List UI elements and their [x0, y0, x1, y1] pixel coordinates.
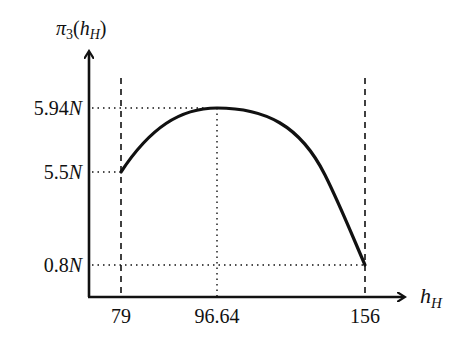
pi3-curve [121, 108, 365, 265]
x-tick-156: 156 [350, 305, 380, 327]
y-tick-5-94N: 5.94N [34, 97, 84, 119]
y-tick-5-5N: 5.5N [44, 161, 84, 183]
y-axis-label: π3(hH) [56, 17, 107, 42]
x-tick-79: 79 [111, 305, 131, 327]
y-tick-0-8N: 0.8N [44, 254, 84, 276]
x-tick-labels: 79 96.64 156 [111, 305, 380, 327]
x-tick-96-64: 96.64 [195, 305, 240, 327]
y-tick-labels: 5.94N 5.5N 0.8N [34, 97, 84, 276]
chart-canvas: π3(hH) hH 5.94N 5.5N 0.8N 79 96.64 156 [0, 0, 470, 344]
reference-lines [92, 78, 365, 297]
x-axis-label: hH [420, 283, 443, 311]
